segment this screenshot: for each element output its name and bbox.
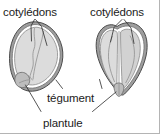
seed-anatomy-figure: cotylédons cotylédons tégument plantule (0, 0, 160, 134)
label-cotyledons-left: cotylédons (3, 6, 57, 18)
figure-canvas: cotylédons cotylédons tégument plantule (0, 0, 160, 134)
label-plantule: plantule (43, 117, 82, 129)
label-cotyledons-right: cotylédons (90, 6, 144, 18)
label-tegument: tégument (47, 92, 95, 104)
